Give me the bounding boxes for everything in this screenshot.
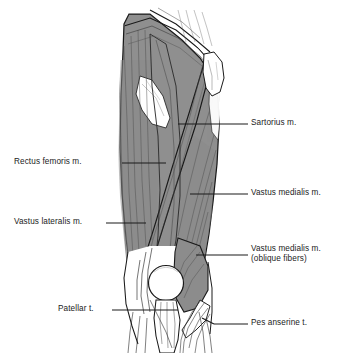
label-vastus-lateralis: Vastus lateralis m. [14,217,82,227]
label-vastus-medialis-oblique-line2: (oblique fibers) [251,254,321,264]
label-vastus-medialis: Vastus medialis m. [251,188,321,198]
label-patellar-tendon: Patellar t. [58,304,94,314]
patella-bone [149,266,184,301]
anatomy-figure: Sartorius m. Rectus femoris m. Vastus me… [0,0,355,353]
label-pes-anserine: Pes anserine t. [251,318,307,328]
label-rectus-femoris: Rectus femoris m. [14,157,82,167]
label-sartorius: Sartorius m. [251,118,296,128]
label-vastus-medialis-oblique: Vastus medialis m. (oblique fibers) [251,244,321,265]
thigh-illustration [0,0,355,353]
label-vastus-medialis-oblique-line1: Vastus medialis m. [251,244,321,254]
